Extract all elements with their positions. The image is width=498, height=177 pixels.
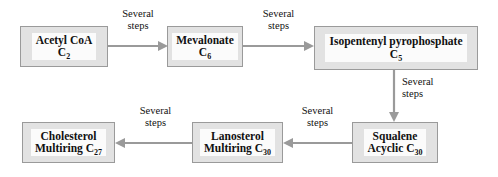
node-acetyl-coa-title: Acetyl CoA [36, 34, 93, 47]
edge-label-line1: Several [243, 8, 314, 20]
node-isopentenyl-pyrophosphate-title: Isopentenyl pyrophosphate [329, 35, 462, 48]
edge-label-lanosterol-to-cholesterol: Several steps [117, 105, 194, 130]
edge-label-line2: steps [108, 20, 168, 32]
edge-label-line2: steps [117, 117, 194, 129]
node-lanosterol-formula: Multiring C30 [204, 142, 271, 155]
node-cholesterol-text: Cholesterol Multiring C27 [31, 129, 106, 157]
node-cholesterol: Cholesterol Multiring C27 [22, 122, 115, 163]
node-isopentenyl-pyrophosphate: Isopentenyl pyrophosphate C5 [314, 26, 478, 70]
edge-label-line2: steps [243, 20, 314, 32]
node-mevalonate: Mevalonate C6 [167, 26, 243, 67]
node-acetyl-coa-text: Acetyl CoA C2 [32, 33, 97, 61]
edge-label-squalene-to-lanosterol: Several steps [283, 105, 352, 130]
arrow-lanosterol-to-cholesterol [115, 137, 192, 149]
node-mevalonate-title: Mevalonate [176, 34, 233, 47]
edge-label-line1: Several [283, 105, 352, 117]
arrow-acetyl-to-mevalonate [108, 40, 168, 52]
node-lanosterol-text: Lanosterol Multiring C30 [200, 129, 275, 157]
arrow-mevalonate-to-ipp [243, 40, 314, 52]
node-squalene: Squalene Acyclic C30 [352, 122, 438, 163]
node-acetyl-coa: Acetyl CoA C2 [20, 26, 108, 67]
arrow-squalene-to-lanosterol [283, 137, 352, 149]
node-squalene-title: Squalene [368, 130, 423, 143]
node-mevalonate-formula: C6 [176, 46, 233, 59]
node-squalene-text: Squalene Acyclic C30 [364, 129, 427, 157]
node-isopentenyl-pyrophosphate-formula: C5 [329, 48, 462, 61]
edge-label-ipp-to-squalene: Several steps [402, 76, 434, 101]
node-cholesterol-title: Cholesterol [35, 130, 102, 143]
edge-label-mevalonate-to-ipp: Several steps [243, 8, 314, 33]
node-squalene-formula: Acyclic C30 [368, 142, 423, 155]
pathway-diagram: Acetyl CoA C2 Mevalonate C6 Isopentenyl … [0, 0, 498, 177]
node-mevalonate-text: Mevalonate C6 [172, 33, 237, 61]
arrow-ipp-to-squalene [388, 70, 400, 122]
edge-label-line2: steps [283, 117, 352, 129]
node-acetyl-coa-formula: C2 [36, 46, 93, 59]
node-isopentenyl-pyrophosphate-text: Isopentenyl pyrophosphate C5 [325, 34, 466, 62]
edge-label-line1: Several [402, 76, 434, 88]
edge-label-line1: Several [108, 8, 168, 20]
edge-label-line1: Several [117, 105, 194, 117]
node-lanosterol: Lanosterol Multiring C30 [192, 122, 283, 163]
edge-label-line2: steps [402, 88, 434, 100]
node-cholesterol-formula: Multiring C27 [35, 142, 102, 155]
edge-label-acetyl-to-mevalonate: Several steps [108, 8, 168, 33]
node-lanosterol-title: Lanosterol [204, 130, 271, 143]
